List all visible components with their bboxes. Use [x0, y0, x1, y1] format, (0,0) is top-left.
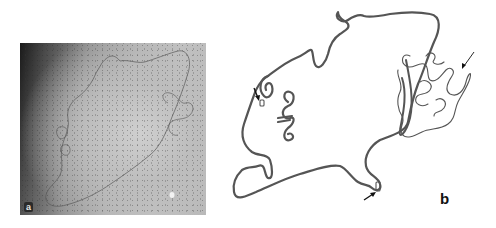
bright-spot [170, 192, 175, 198]
arrow-right-tangle [462, 52, 474, 69]
arrow-bottom-tail [364, 192, 376, 200]
panel-a-label: a [24, 202, 33, 212]
micrograph-dna-strand [20, 43, 206, 215]
dna-tracing [230, 0, 496, 228]
panel-b-label: b [440, 190, 449, 207]
panel-b-tracing [230, 0, 496, 228]
panel-a-micrograph [20, 43, 206, 215]
